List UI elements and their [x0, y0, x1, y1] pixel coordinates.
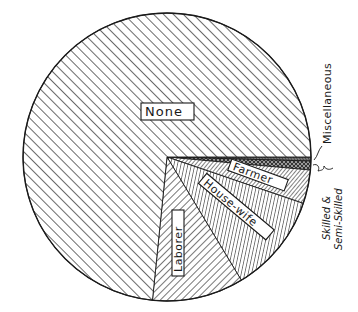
- pie-chart: None Laborer House-wife Farmer Miscellan…: [0, 0, 358, 312]
- label-skilled: Skilled & Semi-Skilled: [321, 188, 344, 250]
- label-misc-text: Miscellaneous: [321, 63, 334, 144]
- label-laborer: Laborer: [172, 210, 185, 276]
- label-none: None: [141, 103, 194, 120]
- skilled-brace: [313, 165, 333, 171]
- misc-leader-line: [314, 146, 322, 160]
- label-none-text: None: [145, 104, 183, 119]
- pie-slices: [23, 13, 311, 301]
- label-skilled-line2: Semi-Skilled: [333, 188, 344, 250]
- label-skilled-line1: Skilled &: [321, 196, 332, 240]
- label-laborer-text: Laborer: [172, 226, 185, 272]
- label-misc: Miscellaneous: [321, 63, 334, 144]
